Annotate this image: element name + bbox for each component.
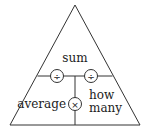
multiply-operator: ×: [69, 98, 82, 111]
sum-label: sum: [62, 51, 88, 65]
how-many-label-line1: how: [89, 88, 115, 102]
average-label: average: [17, 97, 66, 111]
how-many-label-line2: many: [89, 101, 122, 115]
left-divide-operator: ÷: [51, 70, 64, 83]
right-divide-operator: ÷: [85, 70, 98, 83]
divide-icon: ÷: [53, 72, 61, 82]
multiply-icon: ×: [71, 100, 79, 110]
divide-icon: ÷: [87, 72, 95, 82]
formula-triangle-diagram: sum ÷ ÷ × average how many: [0, 0, 145, 134]
